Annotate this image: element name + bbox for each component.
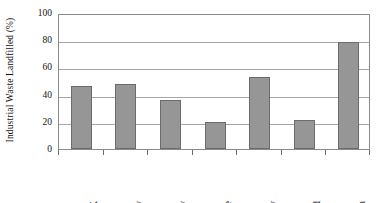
bar xyxy=(71,86,92,149)
bar xyxy=(115,84,136,149)
x-axis-tick-label: Norway xyxy=(132,201,146,203)
y-axis-tick-label: 40 xyxy=(26,91,52,101)
bar xyxy=(249,77,270,149)
bar xyxy=(338,42,359,149)
y-axis-tick-label: 60 xyxy=(26,63,52,73)
y-axis-title: Industrial Waste Landfilled (%) xyxy=(0,0,20,160)
x-axis-tick-label: Germany xyxy=(176,201,190,203)
x-axis-tick-label: France xyxy=(221,201,235,203)
bar-chart: Industrial Waste Landfilled (%) 02040608… xyxy=(0,0,390,203)
y-axis-tick-label: 20 xyxy=(26,118,52,128)
y-axis-tick-label: 100 xyxy=(26,9,52,19)
x-axis-tick-label: Romania xyxy=(355,201,369,203)
x-axis-tick-label: UK xyxy=(87,201,101,203)
x-axis-tick-labels: UKNorwayGermanyFranceItalyFinlandRomania xyxy=(58,155,370,203)
y-axis-tick-labels: 020406080100 xyxy=(22,0,52,203)
y-axis-tick-label: 80 xyxy=(26,36,52,46)
x-axis-tick-label: Finland xyxy=(310,201,324,203)
x-axis-tick-label: Italy xyxy=(266,201,280,203)
y-axis-title-text: Industrial Waste Landfilled (%) xyxy=(5,18,15,143)
bar xyxy=(160,100,181,149)
bar xyxy=(294,120,315,149)
bar xyxy=(205,122,226,149)
y-axis-tick-label: 0 xyxy=(26,145,52,155)
bars-group xyxy=(59,15,369,149)
plot-area xyxy=(58,14,370,150)
